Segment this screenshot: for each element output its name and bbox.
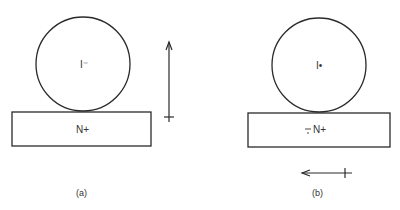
adsorption-diagram: I⁻ N+ (a) I• N+ (b) [0, 0, 400, 210]
caption-b: (b) [312, 188, 323, 198]
panel-b: I• N+ (b) [248, 18, 390, 198]
electron-dot-icon [307, 132, 309, 134]
substrate-label-a: N+ [76, 124, 89, 135]
substrate-label-b-group: N+ [305, 124, 326, 135]
sphere-label-b: I• [316, 60, 323, 71]
arrow-up-icon [164, 42, 174, 122]
panel-a: I⁻ N+ (a) [12, 17, 174, 198]
sphere-label-a: I⁻ [80, 59, 88, 70]
substrate-label-b: N+ [313, 124, 326, 135]
caption-a: (a) [76, 188, 87, 198]
arrow-left-icon [302, 168, 352, 178]
